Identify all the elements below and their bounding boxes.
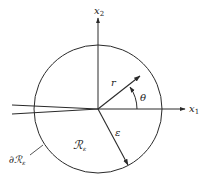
polar-region-diagram: x1 x2 r θ ε ℛε ∂ℛε (0, 0, 209, 183)
region-label: ℛε (73, 138, 86, 152)
epsilon-radius-arrow (98, 109, 128, 165)
x2-axis-label: x2 (94, 5, 104, 18)
theta-label: θ (140, 92, 146, 103)
crack-upper-face (12, 105, 98, 109)
x1-axis-label: x1 (189, 103, 199, 116)
boundary-leader-line (30, 145, 43, 155)
theta-arc-arrow (130, 87, 137, 109)
r-label: r (111, 77, 117, 88)
epsilon-label: ε (115, 127, 120, 138)
boundary-label: ∂ℛε (9, 154, 25, 166)
crack-lower-face (12, 109, 98, 114)
